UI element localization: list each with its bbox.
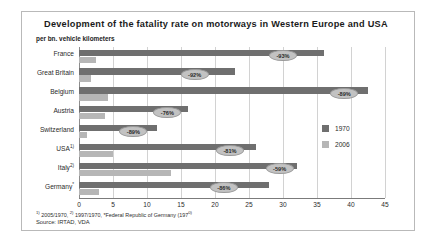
legend-item: 1970	[322, 125, 382, 132]
category-label: Switzerland	[40, 126, 74, 133]
x-tick-label: 15	[177, 201, 184, 208]
legend-item: 2006	[322, 141, 382, 148]
legend-label: 1970	[335, 125, 350, 132]
change-badge: -89%	[330, 88, 358, 99]
category-label: Austria	[53, 107, 74, 114]
x-tick-label: 30	[279, 201, 286, 208]
bar-1970	[79, 163, 297, 169]
bar-1970	[79, 87, 368, 93]
category-label: Great Britain	[37, 69, 74, 76]
bar-group: Germany*-86%	[79, 179, 385, 198]
category-label: Belgium	[50, 88, 74, 95]
x-axis-line	[79, 198, 385, 199]
change-badge: -93%	[269, 50, 297, 61]
x-tick-label: 40	[347, 201, 354, 208]
bar-2006	[79, 170, 171, 176]
bar-2006	[79, 151, 113, 157]
bar-group: Austria-76%	[79, 104, 385, 123]
bar-group: Belgium-89%	[79, 85, 385, 104]
chart-source: Source: IRTAD, VDA	[36, 219, 90, 225]
bar-2006	[79, 94, 108, 100]
x-tick-label: 0	[77, 201, 81, 208]
chart-title: Development of the fatality rate on moto…	[44, 19, 388, 29]
change-badge: -76%	[153, 107, 181, 118]
chart-footnote: 1) 2005/1970, 2) 1997/1970, *Federal Rep…	[36, 210, 192, 218]
bar-2006	[79, 189, 99, 195]
bar-group: France-93%	[79, 47, 385, 66]
legend-swatch	[322, 141, 329, 148]
plot-area: France-93%Great Britain-92%Belgium-89%Au…	[79, 47, 385, 198]
x-tick-label: 20	[211, 201, 218, 208]
x-tick-label: 45	[381, 201, 388, 208]
category-label: USA1)	[56, 144, 74, 152]
bar-2006	[79, 132, 87, 138]
chart-subtitle: per bn. vehicle kilometers	[36, 35, 115, 42]
chart-legend: 19702006	[322, 125, 382, 157]
category-label: France	[53, 50, 74, 57]
bar-group: Great Britain-92%	[79, 66, 385, 85]
gridline-45	[385, 47, 386, 198]
bar-group: Italy2)-59%	[79, 160, 385, 179]
change-badge: -92%	[181, 69, 209, 80]
bar-1970	[79, 68, 235, 74]
x-tick-label: 25	[245, 201, 252, 208]
bar-1970	[79, 182, 269, 188]
x-tick-label: 5	[111, 201, 115, 208]
category-label: Italy2)	[58, 163, 74, 171]
legend-swatch	[322, 125, 329, 132]
change-badge: -86%	[210, 182, 238, 193]
change-badge: -89%	[119, 126, 147, 137]
change-badge: -59%	[266, 163, 294, 174]
change-badge: -81%	[216, 145, 244, 156]
bar-2006	[79, 57, 96, 63]
x-tick-label: 35	[313, 201, 320, 208]
chart-figure: Development of the fatality rate on moto…	[21, 11, 415, 231]
legend-label: 2006	[335, 141, 350, 148]
x-tick-label: 10	[143, 201, 150, 208]
bar-2006	[79, 75, 91, 81]
category-label: Germany*	[45, 182, 74, 190]
bar-2006	[79, 113, 105, 119]
